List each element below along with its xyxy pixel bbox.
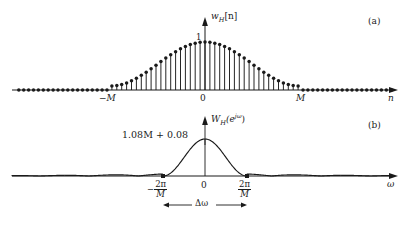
signal-label-time: wH[n] [211, 12, 237, 23]
stem-marker [291, 84, 295, 88]
stem-marker [27, 88, 31, 92]
stem-marker [223, 45, 227, 49]
spectrum-mainlobe-curve [12, 139, 393, 176]
null-marker-right [245, 174, 249, 178]
stem-marker [360, 88, 364, 92]
stem-marker [51, 88, 55, 92]
stem-marker [91, 88, 95, 92]
stem-marker [321, 88, 325, 92]
stem-marker [370, 88, 374, 92]
stem-marker [277, 79, 281, 83]
xtick-label-m: M [296, 94, 305, 103]
stem-marker [380, 88, 384, 92]
xtick-label-two-pi-over-m: 2πM [238, 180, 251, 198]
fraction-plus: 2πM [238, 180, 251, 198]
stem-marker [71, 88, 75, 92]
stem-marker [316, 88, 320, 92]
stem-marker [242, 56, 246, 60]
stem-marker [203, 40, 207, 44]
panel-tag-a: (a) [368, 17, 380, 26]
null-marker-left [161, 174, 165, 178]
figure-canvas: (a) wH[n] 1 −M 0 M n (b) WH(ejω) 1.08M +… [0, 0, 405, 232]
fraction-denominator-2: M [238, 190, 251, 199]
stem-marker [262, 70, 266, 74]
stem-marker [17, 88, 21, 92]
stem-marker [174, 50, 178, 54]
stem-marker [86, 88, 90, 92]
stem-marker [326, 88, 330, 92]
stem-marker [331, 88, 335, 92]
signal-label-freq-arg: (e [226, 114, 235, 124]
signal-label-freq-main: W [211, 114, 220, 124]
stem-marker [37, 88, 41, 92]
time-axis-vertical-arrowhead [202, 17, 208, 26]
stem-plot-group [17, 40, 393, 92]
stem-marker [149, 67, 153, 71]
stem-marker [189, 43, 193, 47]
stem-marker [32, 88, 36, 92]
stem-marker [385, 88, 389, 92]
stem-marker [76, 88, 80, 92]
stem-marker [144, 70, 148, 74]
stem-marker [135, 77, 139, 81]
stem-marker [213, 41, 217, 45]
fraction-denominator: M [154, 190, 167, 199]
stem-marker [218, 43, 222, 47]
stem-marker [110, 84, 114, 88]
stem-marker [296, 84, 300, 88]
stem-marker [105, 88, 109, 92]
stem-marker [22, 88, 26, 92]
stem-marker [233, 50, 237, 54]
stem-marker [238, 53, 242, 57]
signal-label-time-arg: [n] [224, 11, 237, 21]
stem-marker [95, 88, 99, 92]
stem-marker [350, 88, 354, 92]
stem-marker [340, 88, 344, 92]
stem-marker [247, 60, 251, 64]
stem-marker [272, 77, 276, 81]
stem-marker [389, 88, 393, 92]
xtick-minus-sign: − [147, 184, 154, 194]
axis-label-omega: ω [387, 180, 394, 189]
stem-marker [282, 81, 286, 85]
stem-marker [287, 83, 291, 87]
stem-marker [184, 45, 188, 49]
ytick-label-one: 1 [196, 33, 201, 42]
panel-tag-b: (b) [368, 121, 381, 130]
stem-marker [125, 81, 129, 85]
xtick-label-zero-freq: 0 [201, 181, 207, 190]
stem-marker [56, 88, 60, 92]
stem-marker [164, 56, 168, 60]
stem-marker [66, 88, 70, 92]
stem-marker [208, 41, 212, 45]
stem-marker [306, 88, 310, 92]
width-arrowhead-right [241, 202, 247, 207]
stem-marker [228, 47, 232, 51]
ytick-label-peak-amplitude: 1.08M + 0.08 [122, 130, 188, 140]
stem-marker [179, 47, 183, 51]
stem-marker [301, 88, 305, 92]
stem-marker [81, 88, 85, 92]
stem-marker [252, 63, 256, 67]
stem-marker [375, 88, 379, 92]
stem-marker [336, 88, 340, 92]
xtick-label-zero-time: 0 [200, 94, 206, 103]
stem-marker [154, 63, 158, 67]
stem-marker [140, 74, 144, 78]
axis-label-n: n [388, 94, 394, 103]
stem-marker [365, 88, 369, 92]
width-arrowhead-left [163, 202, 169, 207]
stem-marker [42, 88, 46, 92]
freq-axis-vertical-arrowhead [202, 116, 208, 125]
xtick-label-minus-two-pi-over-m: −2πM [147, 180, 167, 198]
stem-marker [311, 88, 315, 92]
stem-marker [130, 79, 134, 83]
stem-marker [159, 60, 163, 64]
stem-marker [169, 53, 173, 57]
stem-marker [267, 74, 271, 78]
stem-marker [100, 88, 104, 92]
stem-marker [61, 88, 65, 92]
stem-marker [115, 84, 119, 88]
stem-marker [355, 88, 359, 92]
signal-label-freq-close: ) [242, 114, 246, 124]
